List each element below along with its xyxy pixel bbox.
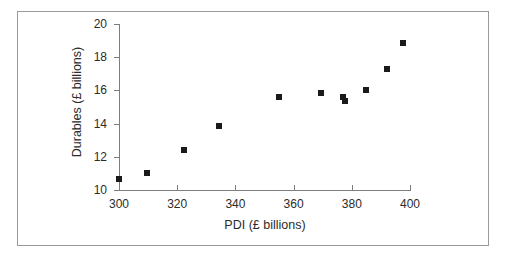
data-point [216,123,222,129]
y-axis-tick [114,124,119,125]
y-axis-tick [114,190,119,191]
x-axis-title: PDI (£ billions) [119,218,411,232]
x-axis-tick [352,185,353,190]
scatter-chart-figure: 101214161820300320340360380400 PDI (£ bi… [0,0,506,261]
x-axis-tick-label: 300 [99,198,139,210]
data-point [318,90,324,96]
y-axis-tick [114,157,119,158]
x-axis-line [119,190,411,191]
x-axis-tick-label: 340 [215,198,255,210]
x-axis-tick [410,185,411,190]
data-point [116,176,122,182]
x-axis-tick-label: 360 [274,198,314,210]
data-point [276,94,282,100]
data-point [384,66,390,72]
y-axis-tick [114,57,119,58]
x-axis-tick [235,185,236,190]
y-axis-tick [114,24,119,25]
y-axis-line [119,24,120,191]
data-point [144,170,150,176]
y-axis-title: Durables (£ billions) [70,12,84,192]
data-point [181,147,187,153]
x-axis-tick-label: 380 [332,198,372,210]
data-point [400,40,406,46]
data-point [363,87,369,93]
x-axis-tick-label: 400 [390,198,430,210]
x-axis-tick [294,185,295,190]
x-axis-tick [119,185,120,190]
x-axis-tick-label: 320 [157,198,197,210]
x-axis-tick [177,185,178,190]
data-point [342,98,348,104]
y-axis-tick [114,90,119,91]
